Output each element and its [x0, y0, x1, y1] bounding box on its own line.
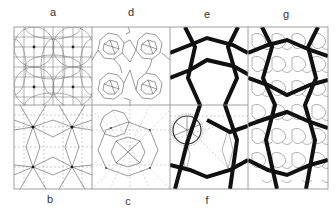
panel-a	[2, 15, 104, 117]
panel-b	[14, 105, 92, 189]
panel-g	[248, 27, 332, 189]
fine-pattern	[252, 33, 332, 182]
rosette-3	[98, 73, 124, 99]
pattern-figure	[0, 0, 336, 211]
rosette-4	[136, 73, 162, 99]
rosette-2	[136, 33, 162, 59]
rosette-1	[98, 33, 124, 59]
panel-d	[92, 27, 170, 105]
panel-c	[92, 105, 170, 189]
panel-e-f	[170, 27, 255, 189]
